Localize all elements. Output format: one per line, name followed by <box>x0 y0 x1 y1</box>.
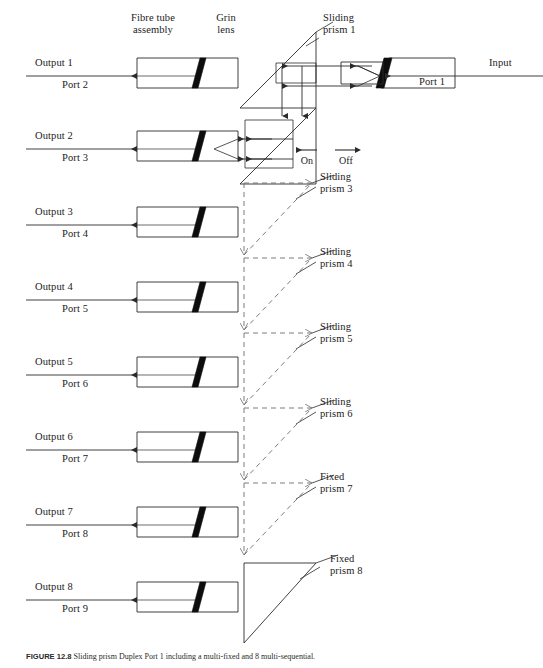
output-5-grin-coating <box>192 357 206 387</box>
input-fan-join1 <box>358 66 380 76</box>
label-output-8: Output 8 <box>35 581 105 593</box>
label-sliding-prism-1: Sliding prism 1 <box>323 12 393 35</box>
sliding-prism-2-outline <box>240 108 316 184</box>
label-port-1: Port 1 <box>419 76 465 88</box>
prism-8-leader-tick <box>300 567 320 579</box>
output-2-grin-coating <box>192 131 206 161</box>
label-prism-6: Sliding prism 6 <box>320 396 390 419</box>
label-port-9: Port 9 <box>62 603 122 615</box>
sliding-prism-1-outline <box>240 32 316 108</box>
label-grin-lens: Grin lens <box>200 12 252 35</box>
label-output-5: Output 5 <box>35 356 105 368</box>
output-8-grin-coating <box>192 582 206 612</box>
output-4-grin-coating <box>192 282 206 312</box>
label-prism-7: Fixed prism 7 <box>320 471 390 494</box>
label-port-5: Port 5 <box>62 303 122 315</box>
output-7-grin-coating <box>192 507 206 537</box>
prism-2-beam-window <box>245 120 293 168</box>
label-output-2: Output 2 <box>35 130 105 142</box>
label-output-7: Output 7 <box>35 506 105 518</box>
label-prism-5: Sliding prism 5 <box>320 321 390 344</box>
label-port-6: Port 6 <box>62 378 122 390</box>
prism-5-hypotenuse <box>244 333 312 405</box>
label-off: Off <box>333 155 359 167</box>
out2-fan-upper <box>214 139 238 149</box>
label-prism-3: Sliding prism 3 <box>320 171 390 194</box>
label-on: On <box>294 155 320 167</box>
prism-7-hypotenuse <box>244 483 312 555</box>
label-input: Input <box>489 57 535 69</box>
output-6-grin-coating <box>192 432 206 462</box>
prism-3-hypotenuse <box>244 183 312 255</box>
label-port-4: Port 4 <box>62 228 122 240</box>
out2-fan-lower <box>214 149 238 159</box>
prism-4-hypotenuse <box>244 258 312 330</box>
figure-caption: FIGURE 12.8 Sliding prism Duplex Port 1 … <box>26 652 526 666</box>
label-port-3: Port 3 <box>62 152 122 164</box>
label-fibre-tube-assembly: Fibre tube assembly <box>112 12 194 35</box>
label-output-1: Output 1 <box>35 57 105 69</box>
label-prism-4: Sliding prism 4 <box>320 246 390 269</box>
prism-6-hypotenuse <box>244 408 312 480</box>
label-port-7: Port 7 <box>62 453 122 465</box>
figure-canvas: Fibre tube assembly Grin lens Sliding pr… <box>0 0 543 668</box>
output-1-grin-coating <box>192 58 206 88</box>
label-output-6: Output 6 <box>35 431 105 443</box>
sliding-prism-1-tick <box>306 38 319 46</box>
input-grin-coating <box>376 58 392 88</box>
label-prism-8: Fixed prism 8 <box>330 553 400 576</box>
caption-number: FIGURE 12.8 <box>26 652 72 661</box>
label-port-8: Port 8 <box>62 528 122 540</box>
caption-text: Sliding prism Duplex Port 1 including a … <box>74 652 316 661</box>
generated-geometry <box>26 22 543 643</box>
input-splitter-box <box>341 62 383 84</box>
label-port-2: Port 2 <box>62 79 122 91</box>
output-3-grin-coating <box>192 207 206 237</box>
label-output-3: Output 3 <box>35 206 105 218</box>
prism-8-hypotenuse <box>244 563 316 643</box>
label-output-4: Output 4 <box>35 281 105 293</box>
optical-switch-diagram <box>0 0 543 668</box>
